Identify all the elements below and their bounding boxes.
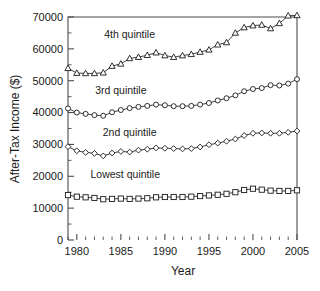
data-point-square xyxy=(180,194,185,199)
data-point-circle xyxy=(145,103,150,108)
data-point-circle xyxy=(171,104,176,109)
data-point-diamond xyxy=(109,150,115,156)
y-tick-label: 20000 xyxy=(32,170,63,182)
y-axis-title: After-Tax Income ($) xyxy=(8,75,22,184)
data-point-square xyxy=(74,194,79,199)
data-point-square xyxy=(162,194,167,199)
data-point-diamond xyxy=(83,149,89,155)
data-point-diamond xyxy=(100,153,106,159)
data-point-square xyxy=(198,193,203,198)
data-point-diamond xyxy=(232,136,238,142)
data-point-square xyxy=(286,188,291,193)
series-label: 4th quintile xyxy=(104,28,155,40)
data-point-circle xyxy=(180,104,185,109)
data-point-triangle xyxy=(74,70,80,76)
data-point-square xyxy=(268,188,273,193)
x-axis-title: Year xyxy=(171,264,195,278)
data-point-diamond xyxy=(127,149,133,155)
data-point-square xyxy=(233,190,238,195)
x-tick-label: 2000 xyxy=(241,245,265,257)
x-tick-label: 1995 xyxy=(197,245,221,257)
data-point-circle xyxy=(215,98,220,103)
data-point-circle xyxy=(206,101,211,106)
data-point-diamond xyxy=(285,129,291,135)
data-point-square xyxy=(83,195,88,200)
data-point-square xyxy=(189,194,194,199)
x-tick-label: 1985 xyxy=(109,245,133,257)
data-point-diamond xyxy=(153,145,159,151)
y-tick-label: 10000 xyxy=(32,202,63,214)
data-point-diamond xyxy=(241,133,247,139)
series-label: 2nd quintile xyxy=(103,126,157,138)
data-point-circle xyxy=(277,83,282,88)
data-point-square xyxy=(136,196,141,201)
y-tick-label: 50000 xyxy=(32,75,63,87)
data-point-diamond xyxy=(268,130,274,136)
data-point-circle xyxy=(162,103,167,108)
x-tick-label: 2005 xyxy=(285,245,309,257)
data-point-triangle xyxy=(232,30,238,36)
data-point-diamond xyxy=(74,148,80,154)
x-tick-label: 1990 xyxy=(153,245,177,257)
data-point-diamond xyxy=(206,142,212,148)
data-point-triangle xyxy=(206,47,212,53)
data-point-diamond xyxy=(92,150,98,156)
data-point-diamond xyxy=(162,145,168,151)
data-point-circle xyxy=(66,106,71,111)
data-point-square xyxy=(294,188,299,193)
data-point-diamond xyxy=(259,130,265,136)
data-point-circle xyxy=(136,104,141,109)
x-axis-ticks xyxy=(68,234,297,240)
data-point-circle xyxy=(127,106,132,111)
data-point-circle xyxy=(242,89,247,94)
data-point-square xyxy=(101,197,106,202)
series-label: Lowest quintile xyxy=(91,168,161,180)
data-point-circle xyxy=(118,108,123,113)
y-axis-ticks xyxy=(68,17,74,240)
data-point-square xyxy=(206,193,211,198)
data-point-circle xyxy=(259,86,264,91)
data-point-triangle xyxy=(65,65,71,71)
data-point-circle xyxy=(189,103,194,108)
data-point-square xyxy=(277,188,282,193)
data-point-circle xyxy=(224,96,229,101)
data-point-square xyxy=(224,191,229,196)
data-point-diamond xyxy=(250,130,256,136)
data-point-square xyxy=(250,186,255,191)
data-point-square xyxy=(92,195,97,200)
data-point-diamond xyxy=(224,138,230,144)
y-tick-label: 0 xyxy=(57,234,63,246)
data-point-diamond xyxy=(180,146,186,152)
data-point-diamond xyxy=(144,146,150,152)
data-point-diamond xyxy=(171,146,177,152)
data-point-circle xyxy=(92,113,97,118)
data-point-square xyxy=(118,196,123,201)
series-annotations: 4th quintile3rd quintile2nd quintileLowe… xyxy=(91,28,161,180)
x-axis-tick-labels: 198019851990199520002005 xyxy=(65,245,310,257)
data-point-diamond xyxy=(136,147,142,153)
data-point-square xyxy=(171,194,176,199)
data-point-square xyxy=(109,196,114,201)
data-point-triangle xyxy=(153,49,159,55)
data-point-circle xyxy=(101,113,106,118)
x-tick-label: 1980 xyxy=(65,245,89,257)
data-point-circle xyxy=(83,111,88,116)
income-quintiles-line-chart: 010000200003000040000500006000070000 198… xyxy=(0,0,320,291)
data-point-diamond xyxy=(188,146,194,152)
data-point-circle xyxy=(250,86,255,91)
data-point-triangle xyxy=(294,12,300,18)
data-point-diamond xyxy=(118,149,124,155)
data-point-square xyxy=(215,192,220,197)
y-tick-label: 60000 xyxy=(32,43,63,55)
y-tick-label: 30000 xyxy=(32,138,63,150)
data-point-square xyxy=(242,187,247,192)
data-point-circle xyxy=(268,83,273,88)
data-point-triangle xyxy=(259,22,265,28)
data-point-circle xyxy=(286,81,291,86)
data-point-triangle xyxy=(118,61,124,66)
data-point-triangle xyxy=(100,70,106,76)
data-point-square xyxy=(153,195,158,200)
data-point-diamond xyxy=(276,130,282,136)
data-point-square xyxy=(145,196,150,201)
data-point-circle xyxy=(110,110,115,115)
